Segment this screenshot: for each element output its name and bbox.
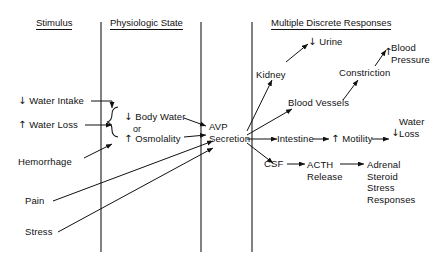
down-arrow-icon: ↓: [391, 127, 399, 139]
node-body-water: ↓ Body Water: [124, 112, 186, 123]
node-water-intake: ↓ Water Intake: [18, 96, 84, 107]
arrow-body-water-to-avp: [184, 118, 206, 126]
node-osmolality-label: Osmolality: [135, 133, 180, 144]
node-water-loss: ↑ Water Loss: [18, 120, 78, 131]
curly-brace: [107, 107, 118, 137]
node-blood-vessels: Blood Vessels: [288, 98, 349, 109]
up-arrow-icon: ↑: [331, 133, 339, 144]
up-arrow-icon: ↑: [384, 46, 392, 58]
node-stress: Stress: [25, 227, 53, 238]
node-acth-line1: ACTH: [307, 159, 343, 171]
avp-branch-connectors: [247, 80, 292, 163]
node-avp-secretion: AVP Secretion: [209, 121, 250, 144]
down-arrow-icon: ↓: [18, 95, 26, 106]
column-header-stimulus: Stimulus: [36, 17, 72, 30]
node-pain: Pain: [25, 196, 44, 207]
node-urine-label: Urine: [319, 36, 342, 47]
node-csf: CSF: [264, 159, 283, 170]
arrow-avp-to-blood-vessels: [247, 109, 292, 135]
node-intestine: Intestine: [277, 134, 314, 145]
node-adrenal-line3: Stress: [367, 182, 415, 194]
node-avp-line2: Secretion: [209, 133, 250, 145]
node-acth-line2: Release: [307, 171, 343, 183]
arrow-pain-to-avp: [53, 141, 213, 201]
down-arrow-icon: ↓: [308, 36, 316, 47]
state-to-avp-connectors: [184, 118, 206, 137]
node-blood-pressure: ↑ Blood Pressure: [384, 42, 430, 65]
node-motility: ↑ Motility: [331, 134, 373, 145]
node-water-loss-label: Water Loss: [29, 119, 78, 130]
node-water-loss-output: ↓ Water Loss: [391, 116, 424, 139]
diagram-canvas: Stimulus Physiologic State Multiple Disc…: [0, 0, 444, 268]
arrow-osmolality-to-avp: [184, 135, 206, 137]
node-adrenal-line4: Responses: [367, 194, 415, 206]
node-constriction: Constriction: [339, 68, 390, 79]
arrow-kidney-to-urine: [286, 44, 308, 62]
node-hemorrhage: Hemorrhage: [18, 157, 72, 168]
node-adrenal-steroid-stress-responses: Adrenal Steroid Stress Responses: [367, 159, 415, 205]
node-avp-line1: AVP: [209, 121, 250, 133]
pain-stress-connectors: [53, 141, 213, 232]
arrow-hemorrhage-to-brace: [84, 144, 112, 158]
column-header-physiologic-state: Physiologic State: [110, 17, 183, 30]
node-adrenal-line2: Steroid: [367, 171, 415, 183]
column-header-multiple-discrete-responses: Multiple Discrete Responses: [271, 17, 391, 30]
arrow-avp-to-kidney: [247, 80, 272, 131]
brace-group: [107, 107, 118, 137]
node-body-water-label: Body Water: [135, 111, 185, 122]
stimulus-connectors: [84, 101, 112, 158]
node-adrenal-line1: Adrenal: [367, 159, 415, 171]
up-arrow-icon: ↑: [18, 119, 26, 130]
node-urine: ↓ Urine: [308, 37, 342, 48]
node-acth-release: ACTH Release: [307, 159, 343, 182]
node-kidney: Kidney: [256, 70, 286, 81]
node-blood-pressure-line2: Pressure: [391, 54, 430, 66]
up-arrow-icon: ↑: [124, 133, 132, 144]
node-osmolality: ↑ Osmolality: [124, 134, 181, 145]
node-blood-pressure-line1: Blood: [391, 42, 430, 54]
down-arrow-icon: ↓: [124, 111, 132, 122]
node-water-loss-output-line1: Water: [399, 116, 424, 128]
node-motility-label: Motility: [342, 133, 372, 144]
node-water-intake-label: Water Intake: [29, 95, 84, 106]
node-water-loss-output-line2: Loss: [399, 128, 424, 140]
